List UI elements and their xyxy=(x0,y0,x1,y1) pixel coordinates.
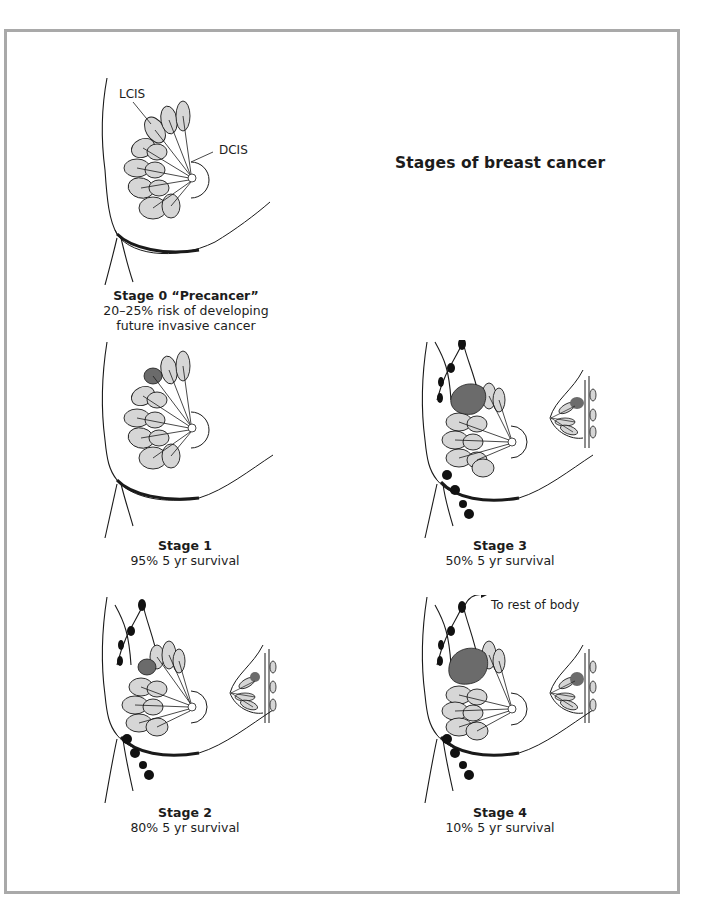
stage-1-title: Stage 1 xyxy=(110,538,260,553)
side-view xyxy=(550,645,596,723)
side-view xyxy=(230,645,276,723)
tumor xyxy=(138,659,156,675)
tumor xyxy=(451,384,486,414)
stage-0-line-1: 20–25% risk of developing xyxy=(100,303,272,318)
stage-4-title: Stage 4 xyxy=(425,805,575,820)
tumor xyxy=(449,648,488,684)
stage-0-illustration: LCIS DCIS xyxy=(95,70,275,285)
lobules xyxy=(124,101,190,219)
stage-0-title: Stage 0 “Precancer” xyxy=(100,288,272,303)
annotation-lcis: LCIS xyxy=(119,87,145,101)
stage-1-line-1: 95% 5 yr survival xyxy=(110,553,260,568)
stage-3-title: Stage 3 xyxy=(425,538,575,553)
stage-2-caption: Stage 2 80% 5 yr survival xyxy=(110,805,260,835)
stage-3-caption: Stage 3 50% 5 yr survival xyxy=(425,538,575,568)
stage-0-caption: Stage 0 “Precancer” 20–25% risk of devel… xyxy=(100,288,272,333)
stage-1-caption: Stage 1 95% 5 yr survival xyxy=(110,538,260,568)
stage-4-illustration: To rest of body xyxy=(415,595,615,805)
stage-1-illustration xyxy=(95,340,275,540)
stage-3-illustration xyxy=(415,340,615,540)
stage-2-title: Stage 2 xyxy=(110,805,260,820)
stage-4-caption: Stage 4 10% 5 yr survival xyxy=(425,805,575,835)
stage-3-line-1: 50% 5 yr survival xyxy=(425,553,575,568)
stage-2-illustration xyxy=(95,595,295,805)
page-title: Stages of breast cancer xyxy=(395,154,605,172)
stage-2-line-1: 80% 5 yr survival xyxy=(110,820,260,835)
stage-4-line-1: 10% 5 yr survival xyxy=(425,820,575,835)
annotation-to-rest-of-body: To rest of body xyxy=(490,598,579,612)
side-view xyxy=(550,370,596,448)
stage-0-line-2: future invasive cancer xyxy=(100,318,272,333)
annotation-dcis: DCIS xyxy=(219,143,248,157)
